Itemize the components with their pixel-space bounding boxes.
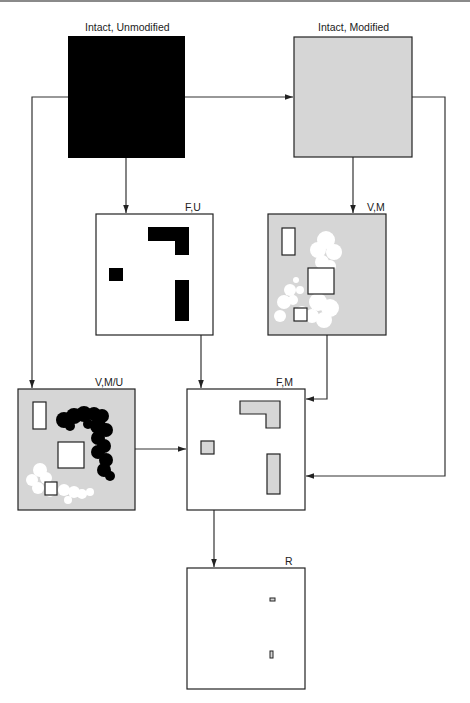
box-intact-unmodified — [68, 36, 185, 158]
box-r — [187, 568, 305, 689]
label-vmu: V,M/U — [95, 376, 123, 388]
fragment-bar — [267, 454, 280, 494]
outlined-rect-square — [58, 442, 84, 468]
label-intact-unmodified: Intact, Unmodified — [85, 21, 170, 33]
residue-rect-horizontal — [270, 598, 275, 601]
label-vm: V,M — [367, 201, 385, 213]
residue-rect-vertical — [270, 651, 273, 658]
box-intact-modified — [294, 37, 412, 157]
box-fm — [187, 389, 305, 510]
box-vmu — [18, 389, 135, 510]
fragment-bar — [175, 280, 189, 321]
edge-intact-unmodified-to-vmu — [32, 97, 68, 388]
edge-vm-to-fm — [306, 335, 327, 399]
outlined-rect-tall — [282, 228, 295, 255]
label-r: R — [285, 555, 293, 567]
outlined-rect-square — [308, 268, 334, 294]
outlined-rect-small — [294, 308, 307, 321]
fragment-square — [201, 441, 214, 454]
label-intact-modified: Intact, Modified — [318, 21, 389, 33]
flow-diagram — [0, 0, 470, 703]
label-fu: F,U — [185, 201, 201, 213]
fragment-square — [109, 268, 123, 281]
box-vm — [268, 214, 386, 335]
label-fm: F,M — [276, 376, 293, 388]
outlined-rect-tall — [33, 402, 46, 429]
box-fu — [96, 214, 213, 335]
outlined-rect-small — [45, 482, 57, 495]
